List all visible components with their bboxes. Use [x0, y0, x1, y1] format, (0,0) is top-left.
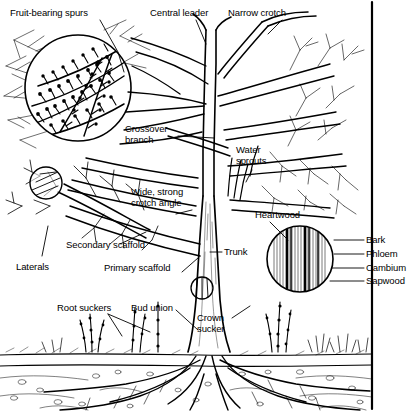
label-crossover-branch: Crossover branch: [125, 124, 167, 145]
label-heartwood: Heartwood: [255, 210, 300, 221]
label-bark: Bark: [366, 235, 385, 246]
label-narrow-crotch: Narrow crotch: [228, 8, 286, 19]
label-root-suckers: Root suckers: [57, 303, 111, 314]
label-primary-scaffold: Primary scaffold: [104, 263, 170, 274]
label-crown-sucker: Crown sucker: [197, 313, 224, 334]
label-trunk: Trunk: [224, 247, 247, 258]
label-fruit-bearing-spurs: Fruit-bearing spurs: [10, 8, 88, 19]
root-strokes: [44, 356, 370, 410]
label-central-leader: Central leader: [150, 8, 208, 19]
root-sucker-strokes: [80, 302, 291, 352]
label-phloem: Phloem: [366, 249, 398, 260]
label-water-sprouts: Water sprouts: [236, 145, 266, 166]
label-laterals: Laterals: [16, 262, 49, 273]
tree-line-art: [0, 0, 410, 411]
tree-anatomy-figure: Fruit-bearing spurs Central leader Narro…: [0, 0, 410, 411]
label-cambium: Cambium: [366, 263, 406, 274]
label-sapwood: Sapwood: [366, 276, 405, 287]
label-wide-strong-crotch-angle: Wide, strong crotch angle: [131, 187, 183, 208]
label-secondary-scaffold: Secondary scaffold: [66, 240, 145, 251]
label-bud-union: Bud union: [131, 303, 173, 314]
